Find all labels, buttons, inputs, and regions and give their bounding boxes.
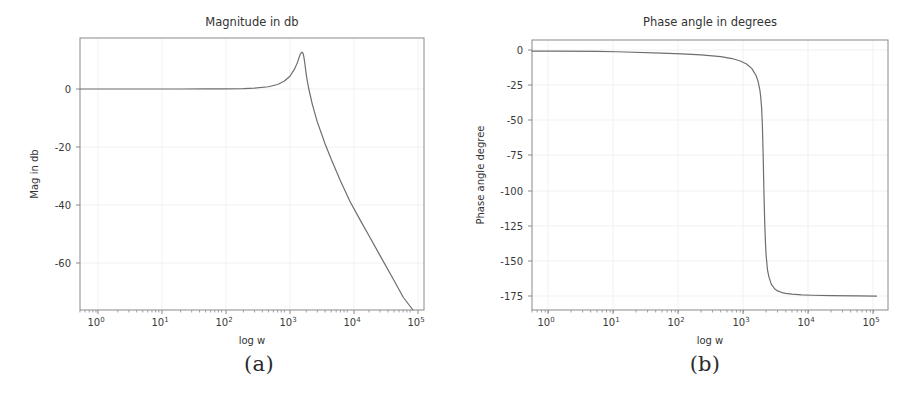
panel-magnitude: Magnitude in db bbox=[0, 0, 462, 411]
y-tick-label: -175 bbox=[500, 291, 523, 302]
y-tick-label: -125 bbox=[500, 221, 523, 232]
y-tick-label: -60 bbox=[55, 258, 71, 269]
svg-text:104: 104 bbox=[343, 316, 361, 328]
y-tick-label: -25 bbox=[507, 80, 523, 91]
svg-text:100: 100 bbox=[87, 316, 104, 328]
y-ticks-phase bbox=[528, 50, 532, 296]
subfigure-caption-b: (b) bbox=[462, 352, 924, 376]
svg-text:102: 102 bbox=[667, 316, 684, 328]
phase-chart: Phase angle in degrees bbox=[462, 0, 924, 350]
plot-area-magnitude bbox=[80, 38, 424, 310]
y-tick-label: -50 bbox=[507, 115, 523, 126]
svg-text:102: 102 bbox=[215, 316, 232, 328]
y-tick-label: -75 bbox=[507, 150, 523, 161]
y-tick-label: 0 bbox=[517, 45, 523, 56]
x-ticks-magnitude bbox=[98, 310, 418, 314]
chart-title-magnitude: Magnitude in db bbox=[205, 15, 298, 29]
x-tick-labels-phase: 100 101 102 103 104 105 bbox=[537, 316, 879, 328]
panel-phase: Phase angle in degrees bbox=[462, 0, 924, 411]
svg-text:103: 103 bbox=[732, 316, 749, 328]
svg-text:100: 100 bbox=[537, 316, 554, 328]
y-axis-label-magnitude: Mag in db bbox=[29, 149, 40, 198]
svg-text:101: 101 bbox=[151, 316, 168, 328]
svg-text:105: 105 bbox=[862, 316, 879, 328]
x-axis-label-magnitude: log w bbox=[239, 335, 266, 346]
y-tick-label: -20 bbox=[55, 142, 71, 153]
y-tick-label: -150 bbox=[500, 256, 523, 267]
svg-text:105: 105 bbox=[407, 316, 424, 328]
y-tick-label: -40 bbox=[55, 200, 71, 211]
x-axis-label-phase: log w bbox=[697, 335, 724, 346]
y-tick-label: 0 bbox=[65, 84, 71, 95]
bode-plot-figure: Magnitude in db bbox=[0, 0, 924, 411]
svg-text:101: 101 bbox=[602, 316, 619, 328]
x-tick-labels-magnitude: 100 101 102 103 104 105 bbox=[87, 316, 424, 328]
y-tick-label: -100 bbox=[500, 186, 523, 197]
y-ticks-magnitude bbox=[76, 89, 80, 263]
chart-title-phase: Phase angle in degrees bbox=[643, 15, 777, 29]
plot-area-phase bbox=[532, 40, 888, 310]
magnitude-chart: Magnitude in db bbox=[0, 0, 462, 350]
svg-text:103: 103 bbox=[279, 316, 296, 328]
y-axis-label-phase: Phase angle degree bbox=[475, 125, 486, 224]
subfigure-caption-a: (a) bbox=[0, 352, 462, 376]
svg-text:104: 104 bbox=[797, 316, 815, 328]
